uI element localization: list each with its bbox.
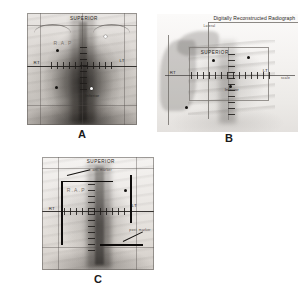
mediastinum-shadow <box>71 17 95 122</box>
label-rap: R.A.P <box>67 188 86 193</box>
mediastinum-shadow <box>87 162 112 268</box>
label-inferior: Inferior <box>85 94 99 98</box>
label-superior: SUPERIOR <box>201 51 229 56</box>
fiducial-marker <box>124 189 127 192</box>
panel-c-letter: C <box>88 273 108 285</box>
label-superior: SUPERIOR <box>70 17 98 22</box>
label-left: LT <box>132 204 137 208</box>
rib-texture <box>42 157 154 270</box>
fiducial-marker <box>90 87 93 90</box>
panel-b-title: Digitally Reconstructed Radiograph <box>213 16 295 21</box>
panel-b-title-rule <box>208 22 298 23</box>
label-superior: SUPERIOR <box>87 160 115 165</box>
fiducial-marker <box>212 59 215 62</box>
fiducial-marker <box>56 49 59 52</box>
label-rap: R.A.P <box>53 41 72 46</box>
panel-b: Digitally Reconstructed Radiograph Later… <box>157 14 298 132</box>
panel-a-letter: A <box>72 128 92 140</box>
posterior-marker-wire <box>130 175 132 222</box>
shoulder-shadow <box>160 40 197 111</box>
marker-baseline <box>61 181 113 183</box>
panel-a-radiograph-image <box>27 13 137 125</box>
panel-b-vertical-guide <box>208 22 209 119</box>
annotation-bottom-label: post. marker <box>129 229 150 232</box>
label-inferior: Inferior <box>225 88 239 92</box>
label-right: RT <box>170 71 176 75</box>
annotation-top-label: ant. marker <box>92 169 111 172</box>
spine-shadow <box>79 22 88 121</box>
panel-c: ant. marker post. marker SUPERIOR RT LT … <box>42 157 154 270</box>
panel-a: SUPERIOR RT LT R.A.P Inferior A <box>27 13 137 125</box>
label-edge-scale: scale <box>281 77 290 80</box>
marker-baseline-lower <box>100 244 143 246</box>
anterior-marker-wire <box>61 182 63 245</box>
panel-b-letter: B <box>219 132 239 144</box>
rib-texture <box>27 13 137 125</box>
panel-b-vertical-guide <box>168 35 169 125</box>
panel-c-radiograph-image <box>42 157 154 270</box>
clavicle-shadow <box>93 24 130 43</box>
fiducial-marker <box>229 85 232 88</box>
panel-b-radiograph-image <box>157 14 298 132</box>
fiducial-marker <box>55 86 58 89</box>
label-right: RT <box>34 61 40 65</box>
label-lateral: Lateral <box>204 25 216 28</box>
label-left: LT <box>119 59 124 63</box>
label-left: LT <box>263 69 268 73</box>
label-right: RT <box>49 207 55 211</box>
figure-root: SUPERIOR RT LT R.A.P Inferior A Digitall… <box>0 0 301 298</box>
